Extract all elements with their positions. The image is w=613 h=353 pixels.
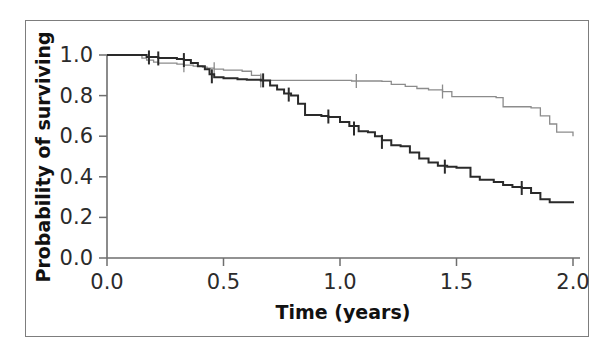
figure-root: 1.0 0.8 0.6 0.4 0.2 0.0 0.0 0.5 1.0 1.5 … — [0, 0, 613, 353]
y-tick-label-0.2: 0.2 — [60, 205, 93, 229]
x-tick-label-0.0: 0.0 — [90, 270, 123, 294]
y-tick-label-0.0: 0.0 — [60, 246, 93, 270]
y-tick-label-1.0: 1.0 — [60, 43, 93, 67]
series-layer — [107, 50, 573, 203]
x-axis-title: Time (years) — [276, 301, 411, 323]
x-tick-label-1.5: 1.5 — [440, 270, 473, 294]
x-tick-label-1.0: 1.0 — [323, 270, 356, 294]
y-tick-label-0.8: 0.8 — [60, 84, 93, 108]
y-axis-title: Probability of surviving — [32, 31, 54, 282]
survival-chart: 1.0 0.8 0.6 0.4 0.2 0.0 0.0 0.5 1.0 1.5 … — [0, 0, 613, 353]
x-tick-label-2.0: 2.0 — [556, 270, 589, 294]
x-tick-group — [107, 258, 573, 266]
series-lower-curve — [107, 50, 573, 203]
curve-upper-curve — [107, 55, 573, 136]
series-upper-curve — [107, 55, 573, 136]
x-tick-label-0.5: 0.5 — [207, 270, 240, 294]
curve-lower-curve — [107, 55, 573, 203]
y-tick-label-0.6: 0.6 — [60, 124, 93, 148]
y-tick-group — [99, 55, 107, 258]
y-tick-label-0.4: 0.4 — [60, 165, 93, 189]
